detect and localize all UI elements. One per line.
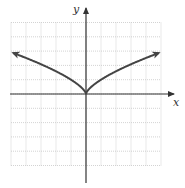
curve-right-arrow	[86, 53, 159, 94]
y-axis-label: y	[73, 3, 79, 16]
x-axis-label: x	[173, 96, 179, 109]
graph	[0, 0, 185, 188]
curve-left-arrow	[13, 53, 86, 94]
